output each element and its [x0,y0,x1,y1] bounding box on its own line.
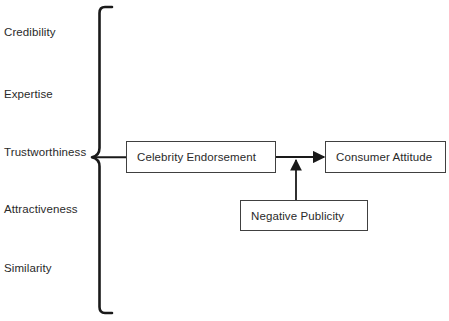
node-negative-publicity[interactable]: Negative Publicity [240,200,368,231]
construct-label-expertise: Expertise [4,89,53,101]
node-label-negative-publicity: Negative Publicity [251,210,344,222]
construct-label-credibility: Credibility [4,27,56,39]
node-consumer-attitude[interactable]: Consumer Attitude [325,141,446,173]
diagram-canvas: Credibility Expertise Trustworthiness At… [0,0,449,321]
node-celebrity-endorsement[interactable]: Celebrity Endorsement [126,141,276,173]
node-label-consumer-attitude: Consumer Attitude [336,151,432,163]
construct-label-similarity: Similarity [4,263,52,275]
construct-label-attractiveness: Attractiveness [4,204,78,216]
node-label-celebrity-endorsement: Celebrity Endorsement [137,151,256,163]
construct-label-trustworthiness: Trustworthiness [4,147,86,159]
